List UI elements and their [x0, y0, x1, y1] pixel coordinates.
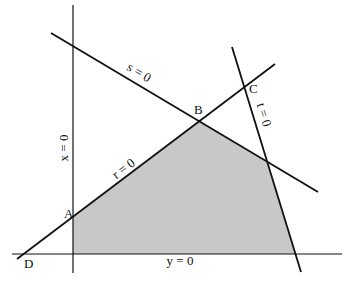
point-label-a: A: [64, 206, 74, 221]
point-label-c: C: [249, 81, 258, 96]
line-label: t = 0: [254, 101, 275, 128]
line-label: y = 0: [167, 253, 194, 268]
diagram-svg: ABCD s = 0t = 0x = 0r = 0y = 0: [0, 0, 351, 282]
line-label: s = 0: [125, 59, 154, 85]
point-label-d: D: [24, 256, 33, 271]
lp-diagram: ABCD s = 0t = 0x = 0r = 0y = 0: [0, 0, 351, 282]
point-label-b: B: [194, 102, 203, 117]
line-label: x = 0: [56, 135, 71, 162]
